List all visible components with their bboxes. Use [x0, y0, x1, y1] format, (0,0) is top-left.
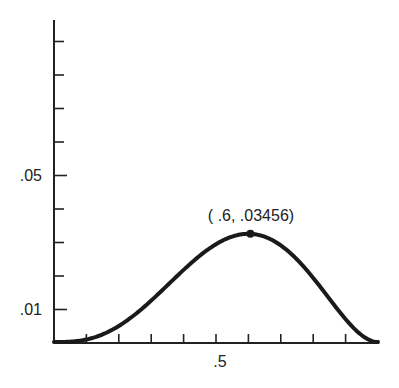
density-curve	[54, 234, 378, 342]
y-tick-label-01: .01	[20, 301, 42, 318]
y-axis-ticks	[54, 42, 67, 310]
x-axis-ticks	[86, 334, 345, 343]
chart: .05 .01 .5 ( .6, .03456)	[0, 0, 399, 388]
y-tick-label-05: .05	[20, 167, 42, 184]
x-tick-label-5: .5	[213, 353, 226, 370]
peak-annotation: ( .6, .03456)	[208, 207, 294, 224]
peak-marker	[246, 230, 254, 238]
